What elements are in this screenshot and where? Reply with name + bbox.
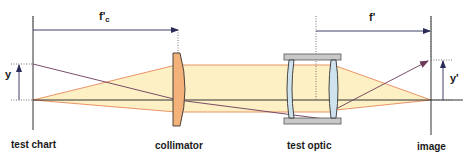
f-symbol: f' (369, 12, 375, 23)
test-optic-mount-top (284, 54, 341, 60)
label-image: image (417, 142, 446, 152)
fc-symbol: f'c (99, 11, 110, 24)
test-optic-lens-rear (329, 60, 338, 118)
beam-cone-image-side (336, 66, 431, 110)
label-collimator: collimator (155, 141, 203, 151)
optical-diagram (0, 0, 467, 161)
y-prime-symbol-main: y' (450, 72, 459, 84)
beam-cone-object-side (33, 65, 176, 112)
label-test-optic: test optic (287, 141, 331, 151)
label-test-chart: test chart (11, 140, 56, 150)
test-optic-mount-bottom (284, 118, 341, 124)
collimated-beam (182, 65, 332, 112)
fc-symbol-subscript: c (105, 15, 109, 24)
y-prime-symbol: y' (450, 73, 459, 84)
f-symbol-main: f' (369, 11, 375, 23)
y-symbol-main: y (5, 68, 11, 80)
collimator-lens (173, 53, 185, 126)
y-symbol: y (5, 69, 11, 80)
